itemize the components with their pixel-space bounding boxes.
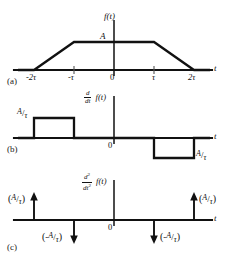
impulse-3-label: (-A/τ) xyxy=(160,231,180,244)
x-axis-label-b: t xyxy=(214,131,217,141)
tick-label-a-2: 0 xyxy=(110,72,114,82)
impulse-4-arrowhead xyxy=(190,192,198,201)
panel-a: f(t) A t -2τ -τ 0 τ 2τ (a) xyxy=(0,0,228,88)
second-derivative-numerator: d2 xyxy=(82,172,92,183)
panel-b: d dt f(t) t 0 A/τ A/τ (b) xyxy=(0,88,228,170)
derivative-denominator: dt xyxy=(84,98,91,105)
tick-label-a-1: -τ xyxy=(68,72,74,82)
panel-b-plot xyxy=(0,88,228,170)
impulse-1-label: (A/τ) xyxy=(8,193,25,206)
pulse-b-pos-den: τ xyxy=(24,111,27,120)
impulse-2-arrowhead xyxy=(70,236,78,245)
impulse-2-label: (-A/τ) xyxy=(42,231,62,244)
pulse-b-neg-den: τ xyxy=(203,153,206,162)
second-derivative-function: f(t) xyxy=(94,176,106,186)
y-axis-label-b: d dt f(t) xyxy=(84,90,106,106)
amplitude-label-a: A xyxy=(100,31,106,41)
impulse-1-arrowhead xyxy=(30,192,38,201)
caption-c: (c) xyxy=(7,242,17,252)
tick-label-a-0: -2τ xyxy=(26,72,36,82)
caption-b: (b) xyxy=(7,144,18,154)
negative-pulse-label-b: A/τ xyxy=(196,149,206,162)
panel-c-plot xyxy=(0,170,228,263)
panel-c: d2 dt2 f(t) t 0 (A/τ) (-A/τ) (-A/τ) (A/τ… xyxy=(0,170,228,263)
y-axis-label-c: d2 dt2 f(t) xyxy=(82,172,106,192)
caption-a: (a) xyxy=(7,76,17,86)
y-axis-label-a: f(t) xyxy=(104,11,115,21)
impulse-3-arrowhead xyxy=(150,236,158,245)
derivative-function: f(t) xyxy=(94,92,106,102)
second-derivative-fraction: d2 dt2 xyxy=(82,172,92,192)
x-axis-label-a: t xyxy=(214,63,217,73)
origin-label-c: 0 xyxy=(108,222,112,232)
tick-label-a-3: τ xyxy=(152,72,155,82)
impulse-4-label: (A/τ) xyxy=(199,193,216,206)
derivative-fraction: d dt xyxy=(84,90,91,106)
positive-pulse-label-b: A/τ xyxy=(17,107,27,120)
origin-label-b: 0 xyxy=(108,140,112,150)
x-axis-label-c: t xyxy=(214,213,217,223)
second-derivative-denominator: dt2 xyxy=(82,183,92,193)
tick-label-a-4: 2τ xyxy=(188,72,195,82)
